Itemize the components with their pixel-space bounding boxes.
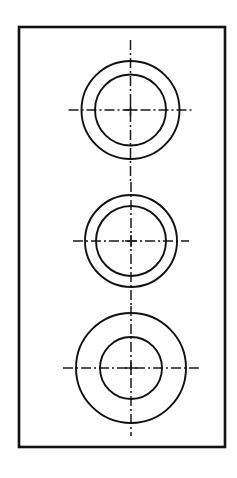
drawing-canvas xyxy=(0,0,237,478)
technical-drawing-viewport xyxy=(0,0,237,478)
rectangular-plate-outline xyxy=(19,27,225,447)
